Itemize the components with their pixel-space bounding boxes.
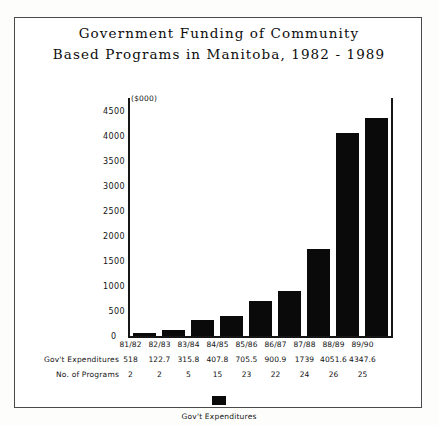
table-cell-programs-4: 23 [232,370,261,379]
chart-page: Government Funding of Community Based Pr… [0,0,438,425]
table-cell-year-7: 88/89 [319,340,348,349]
chart-title: Government Funding of Community Based Pr… [15,23,423,65]
y-axis-tick-4000: 4000 [91,131,125,140]
bar-81-82 [133,333,155,336]
table-cell-year-3: 84/85 [203,340,232,349]
y-axis-tick-500: 500 [91,306,125,315]
y-axis-tick-1000: 1000 [91,281,125,290]
bar-89-90 [365,118,387,336]
legend-swatch-govt-expenditures [212,396,226,405]
table-cell-programs-3: 15 [203,370,232,379]
bar-82-83 [162,330,184,336]
bar-88-89 [336,133,358,336]
table-cell-expenditure-4: 705.5 [232,355,261,364]
table-cell-year-1: 82/83 [145,340,174,349]
chart-frame: Government Funding of Community Based Pr… [14,17,422,408]
x-axis-line [128,336,393,338]
chart-title-line-1: Government Funding of Community [15,23,423,44]
bar-84-85 [220,316,242,336]
bar-series-govt-expenditures [130,98,391,336]
table-cell-expenditure-7: 4051.6 [319,355,348,364]
bar-83-84 [191,320,213,336]
table-cell-programs-8: 25 [348,370,377,379]
y-axis-tick-labels: 50010001500200025003000350040004500 [85,98,125,338]
y-axis-tick-3500: 3500 [91,156,125,165]
plot-right-border [391,98,393,338]
table-cell-year-8: 89/90 [348,340,377,349]
y-axis-tick-4500: 4500 [91,106,125,115]
table-cell-expenditure-6: 1739 [290,355,319,364]
table-cell-expenditure-5: 900.9 [261,355,290,364]
table-cell-year-0: 81/82 [116,340,145,349]
bar-87-88 [307,249,329,336]
table-cell-expenditure-2: 315.8 [174,355,203,364]
table-cell-expenditure-8: 4347.6 [348,355,377,364]
table-cell-programs-5: 22 [261,370,290,379]
legend-label-govt-expenditures: Gov't Expenditures [15,412,423,421]
table-row-programs: No. of Programs 225152322242625 [15,370,423,385]
table-cell-year-4: 85/86 [232,340,261,349]
table-row-label-programs: No. of Programs [27,370,119,379]
chart-legend: Gov't Expenditures [15,390,423,421]
chart-title-line-2: Based Programs in Manitoba, 1982 - 1989 [15,44,423,65]
table-cell-expenditure-3: 407.8 [203,355,232,364]
plot-area [128,98,393,338]
table-cell-expenditure-1: 122.7 [145,355,174,364]
table-cell-programs-0: 2 [116,370,145,379]
y-axis-tick-1500: 1500 [91,256,125,265]
table-cell-programs-7: 26 [319,370,348,379]
table-cell-programs-2: 5 [174,370,203,379]
table-cell-programs-6: 24 [290,370,319,379]
table-row-expenditures: Gov't Expenditures 518122.7315.8407.8705… [15,355,423,370]
table-cell-expenditure-0: 518 [116,355,145,364]
table-cell-year-6: 87/88 [290,340,319,349]
y-axis-tick-2000: 2000 [91,231,125,240]
bar-86-87 [278,291,300,336]
y-axis-tick-3000: 3000 [91,181,125,190]
y-axis-tick-2500: 2500 [91,206,125,215]
table-row-label-expenditures: Gov't Expenditures [27,355,119,364]
table-cells-expenditures: 518122.7315.8407.8705.5900.917394051.643… [114,355,379,370]
table-cells-years: 81/8282/8383/8484/8585/8686/8787/8888/89… [114,340,379,355]
table-row-years: 81/8282/8383/8484/8585/8686/8787/8888/89… [15,340,423,355]
bar-85-86 [249,301,271,336]
data-table: 81/8282/8383/8484/8585/8686/8787/8888/89… [15,340,423,385]
table-cells-programs: 225152322242625 [114,370,379,385]
table-cell-year-5: 86/87 [261,340,290,349]
table-cell-year-2: 83/84 [174,340,203,349]
table-cell-programs-1: 2 [145,370,174,379]
